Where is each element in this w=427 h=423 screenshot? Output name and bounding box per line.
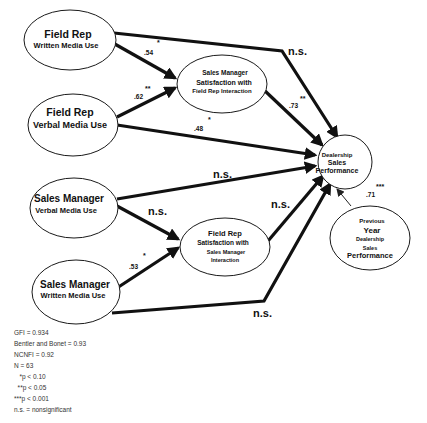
svg-text:Field Rep Interaction: Field Rep Interaction <box>192 88 252 94</box>
svg-text:Written Media Use: Written Media Use <box>34 41 99 50</box>
label-frv-smsat-sig: ** <box>145 85 151 92</box>
svg-text:Written Media Use: Written Media Use <box>41 291 106 300</box>
legend-sample-size: N = 63 <box>14 360 86 371</box>
svg-text:Performance: Performance <box>347 251 393 260</box>
label-frw-dealer-sig: * <box>157 39 160 46</box>
svg-text:Verbal Media Use: Verbal Media Use <box>33 120 107 130</box>
svg-text:Dealership: Dealership <box>356 236 385 242</box>
label-smw-dealer-coef: n.s. <box>253 307 272 319</box>
label-prev-dealer-sig: *** <box>376 183 384 190</box>
edge-fr-verbal-to-sm-satisfaction <box>117 88 175 117</box>
svg-text:Dealership: Dealership <box>322 152 353 158</box>
label-frv-dealer-coef: .48 <box>194 125 203 132</box>
label-smsat-dealer-coef: .73 <box>289 102 298 109</box>
label-frv-smsat-coef: .62 <box>134 93 143 100</box>
svg-text:Interaction: Interaction <box>211 257 240 263</box>
node-field-rep-verbal-media-use: Field Rep Verbal Media Use <box>28 94 118 156</box>
node-field-rep-written-media-use: Field Rep Written Media Use <box>24 10 116 70</box>
svg-text:Sales Manager: Sales Manager <box>34 193 104 204</box>
label-frv-dealer-sig: * <box>208 116 211 123</box>
node-previous-year-dealership-sales-performance: Previous Year Dealership Sales Performan… <box>330 206 410 270</box>
label-smw-frsat-sig: * <box>143 252 146 259</box>
legend-gfi: GFI = 0.934 <box>14 327 86 338</box>
node-sm-satisfaction-with-fr-interaction: Sales Manager Satisfaction with Field Re… <box>177 55 267 113</box>
legend-ncnfi: NCNFI = 0.92 <box>14 349 86 360</box>
svg-text:Year: Year <box>364 226 381 235</box>
svg-text:Sales Manager: Sales Manager <box>202 69 248 77</box>
legend-bentler-bonet: Bentler and Bonet = 0.93 <box>14 338 86 349</box>
node-dealership-sales-performance: Dealership Sales Performance <box>316 135 372 189</box>
label-smw-frsat-coef: .53 <box>129 263 138 270</box>
edge-prev-year-to-dealership <box>337 189 351 206</box>
node-fr-satisfaction-with-sm-interaction: Field Rep Satisfaction with Sales Manage… <box>180 218 270 276</box>
svg-text:Sales Manager: Sales Manager <box>207 249 246 255</box>
label-frw-smsat-coef: .54 <box>144 49 153 56</box>
svg-text:Field Rep: Field Rep <box>44 28 91 40</box>
svg-text:Satisfaction with: Satisfaction with <box>196 79 252 86</box>
fit-statistics-legend: GFI = 0.934 Bentler and Bonet = 0.93 NCN… <box>14 327 86 415</box>
label-frsat-dealer-coef: n.s. <box>271 198 290 210</box>
legend-p-010: *p < 0.10 <box>14 371 86 382</box>
edge-fr-verbal-to-dealership <box>117 125 315 155</box>
svg-text:Field Rep: Field Rep <box>208 229 242 238</box>
legend-p-005: **p < 0.05 <box>14 382 86 393</box>
svg-text:Satisfaction with: Satisfaction with <box>197 239 249 246</box>
svg-text:Field Rep: Field Rep <box>46 106 93 118</box>
legend-p-0001: ***p < 0.001 <box>14 393 86 404</box>
label-prev-dealer-coef: .71 <box>366 191 375 198</box>
svg-text:Verbal Media Use: Verbal Media Use <box>35 206 97 215</box>
svg-text:Previous: Previous <box>359 218 385 224</box>
label-frw-dealer-coef: n.s. <box>288 45 307 57</box>
label-smv-dealer-coef: n.s. <box>213 168 232 180</box>
label-smsat-dealer-sig: ** <box>300 95 306 102</box>
label-smv-frsat-coef: n.s. <box>148 205 167 217</box>
legend-nonsignificant: n.s. = nonsignificant <box>14 404 86 415</box>
node-sales-manager-written-media-use: Sales Manager Written Media Use <box>32 260 120 324</box>
svg-text:Sales Manager: Sales Manager <box>40 279 110 290</box>
node-sales-manager-verbal-media-use: Sales Manager Verbal Media Use <box>30 178 118 238</box>
svg-text:Sales: Sales <box>328 159 346 166</box>
svg-text:Performance: Performance <box>316 167 359 174</box>
edge-sm-written-to-fr-satisfaction <box>117 248 178 288</box>
